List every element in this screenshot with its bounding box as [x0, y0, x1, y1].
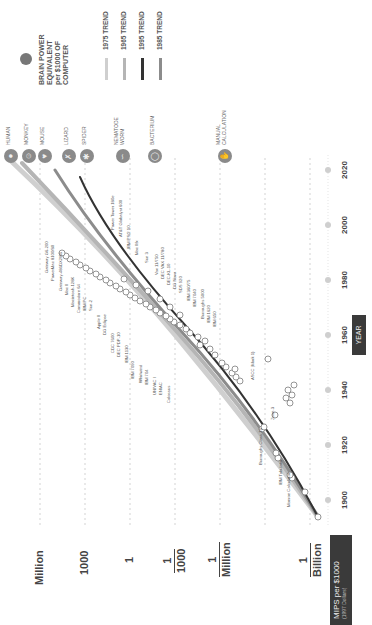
- machine-label: DEC PDP-10: [116, 332, 121, 357]
- machine-label: Monroe Calculator: [286, 473, 291, 507]
- x-axis-title: YEAR: [352, 315, 366, 355]
- x-tick-1900: 1900: [340, 491, 349, 509]
- legend-swatch-1985: [159, 58, 162, 80]
- x-tick-2000: 2000: [340, 216, 349, 234]
- machine-label: Macintosh-128K: [70, 277, 75, 307]
- mouse-icon: ♥: [38, 149, 52, 163]
- machine-label: AT&T Globalyst 600: [118, 200, 123, 237]
- machine-label: ENIAC: [158, 382, 163, 395]
- bacterium-icon: ◯: [148, 149, 162, 163]
- monkey-icon: ☺: [22, 149, 36, 163]
- x-tick-1940: 1940: [340, 381, 349, 399]
- y-tick-1-billion: 1Billion: [298, 543, 323, 577]
- y-tick-million: Million: [34, 550, 45, 585]
- level-monkey: MONKEY: [24, 123, 30, 145]
- machine-label: Commodore 64: [76, 284, 81, 313]
- level-manual-calculation: MANUAL CALCULATION: [216, 105, 227, 145]
- machine-label: DEC-KL-10: [166, 264, 171, 285]
- machine-label: Mac IIfx: [134, 240, 139, 255]
- level-bacterium: BACTERIUM: [150, 116, 156, 145]
- year-axis-dots: [325, 155, 331, 525]
- chart-canvas: Million 1000 1 11000 1Million 1Billion M…: [0, 0, 372, 625]
- machine-label: DG Nova: [172, 272, 177, 289]
- machine-label: DG Eclipse: [102, 314, 107, 335]
- machine-label: Burroughs Class 16: [258, 428, 263, 465]
- machine-label: PowerMac 8100/80: [50, 245, 55, 281]
- trend-lines: [10, 160, 318, 517]
- x-tick-2020: 2020: [340, 161, 349, 179]
- machine-label: IBM 360/75: [186, 280, 191, 301]
- machine-label: Sun-2: [88, 300, 93, 311]
- x-tick-1920: 1920: [340, 436, 349, 454]
- legend-swatch-1995: [141, 58, 144, 80]
- x-tick-1980: 1980: [340, 271, 349, 289]
- y-axis-title: MIPS per $1000 (1997 Dollars): [330, 535, 352, 625]
- x-tick-1960: 1960: [340, 326, 349, 344]
- level-lizard: LIZARD: [64, 127, 70, 145]
- machine-label: IBM 1620: [206, 305, 211, 323]
- y-tick-1-1000: 11000: [162, 549, 187, 573]
- machine-label: ASCC (Mark 1): [250, 352, 255, 380]
- machine-label: Power Tower 180e: [110, 195, 115, 230]
- level-nematode-worm: NEMATODE WORM: [114, 115, 125, 145]
- y-tick-1000: 1000: [79, 551, 90, 575]
- human-icon: ●: [4, 149, 18, 163]
- machine-label: IBM 7090: [130, 361, 135, 379]
- machine-label: IBM 1130: [124, 345, 129, 363]
- machine-label: IBM 650: [212, 311, 217, 327]
- machine-label: IBM 7040: [192, 289, 197, 307]
- legend-swatch-1975: [105, 58, 108, 80]
- level-spider: SPIDER: [82, 126, 88, 145]
- machine-label: IBM PS/2 90: [126, 225, 131, 249]
- legend-1995: 1995 TREND: [138, 11, 145, 50]
- legend-1975: 1975 TREND: [102, 11, 109, 50]
- legend-1965: 1965 TREND: [120, 11, 127, 50]
- legend-swatch-1965: [123, 58, 126, 80]
- machine-label: Zuse-3: [270, 407, 275, 420]
- machine-label: Mac II: [64, 284, 69, 295]
- machine-label: IBM Tabulator: [278, 459, 283, 485]
- y-tick-1-million: 1Million: [207, 542, 232, 577]
- hand-icon: ✋: [218, 149, 232, 163]
- plot-area: [0, 0, 372, 625]
- worm-icon: ∽: [116, 149, 130, 163]
- machine-label: IBM 704: [144, 369, 149, 385]
- machine-label: Burroughs 5000: [200, 289, 205, 319]
- level-human: HUMAN: [6, 127, 12, 145]
- spider-icon: ✱: [80, 149, 94, 163]
- machine-label: CDC 7600: [110, 333, 115, 353]
- machine-label: Colossus: [166, 386, 171, 403]
- lizard-icon: ✗: [62, 149, 76, 163]
- legend-title: BRAIN POWER EQUIVALENT per $1000 OF COMP…: [38, 0, 70, 85]
- legend-1985: 1985 TREND: [156, 11, 163, 50]
- machine-label: Vax 11/750: [154, 254, 159, 275]
- machine-label: UNIVAC I: [152, 377, 157, 395]
- machine-label: SDS 920: [178, 276, 183, 293]
- machine-label: IBM PC: [82, 297, 87, 311]
- machine-label: Gateway G6-200: [44, 241, 49, 273]
- machine-label: Gateway-486DX2/66: [58, 252, 63, 291]
- machine-label: Apple II: [96, 315, 101, 329]
- machine-label: DEC VAX 11/780: [160, 247, 165, 279]
- machine-label: Whirlwind: [138, 365, 143, 383]
- y-tick-1: 1: [124, 557, 135, 563]
- machine-label: Sun 3: [144, 252, 149, 263]
- level-mouse: MOUSE: [40, 127, 46, 145]
- brain-power-dot-icon: [20, 53, 32, 65]
